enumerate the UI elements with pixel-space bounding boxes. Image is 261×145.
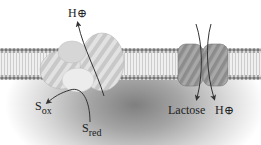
proton-out-label: H⊕ [68,7,87,19]
lactose-label: Lactose [168,104,205,116]
diagram-canvas [0,0,261,145]
redox-proton-pump [40,33,124,92]
lactose-symporter [178,44,228,86]
proton-in-label: H⊕ [215,104,234,116]
s-red-label: Sred [82,122,101,138]
s-ox-label: Sox [35,100,52,116]
s-red-to-s-ox-arrow [48,89,90,122]
